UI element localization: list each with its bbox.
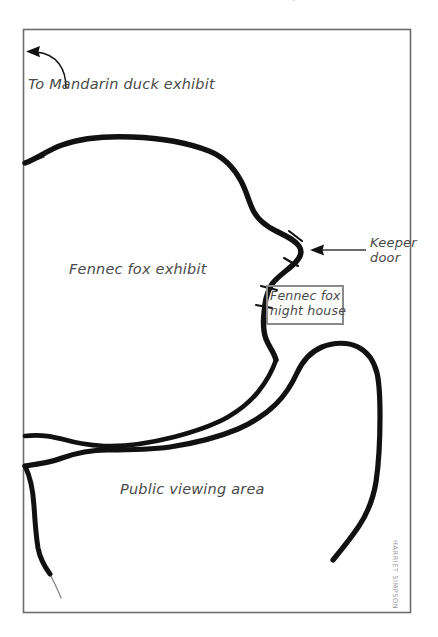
- map-drawing-canvas: [0, 0, 438, 637]
- label-keeper-door: Keeper door: [370, 235, 434, 265]
- fennec-fox-enclosure-boundary: [25, 137, 301, 360]
- illustrator-credit: HARRIET SIMPSON: [391, 540, 399, 620]
- map-frame-border: [24, 30, 411, 613]
- straight-arrow-left-icon: [310, 245, 366, 256]
- label-to-mandarin-duck-exhibit: To Mandarin duck exhibit: [28, 76, 215, 92]
- page-artifact-speck: °: [292, 0, 300, 6]
- walkway-lower-edge: [25, 343, 380, 560]
- label-public-viewing-area: Public viewing area: [120, 481, 265, 497]
- walkway-upper-edge: [25, 360, 276, 446]
- label-fennec-fox-night-house: Fennec fox night house: [270, 288, 350, 318]
- public-area-left-edge: [25, 466, 61, 598]
- enclosure-map-figure: To Mandarin duck exhibit Fennec fox exhi…: [0, 0, 438, 637]
- label-fennec-fox-exhibit: Fennec fox exhibit: [69, 261, 207, 277]
